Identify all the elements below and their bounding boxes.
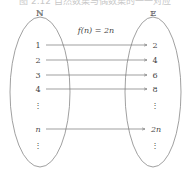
right-ellipsis: ⋮ — [151, 101, 159, 110]
mapping-arrows — [46, 45, 147, 129]
right-element: 6 — [152, 71, 157, 80]
left-element: 3 — [35, 71, 40, 80]
right-element: 2n — [150, 125, 161, 134]
right-element: 2 — [152, 41, 157, 50]
left-ellipsis: ⋮ — [34, 141, 42, 150]
right-element: 4 — [152, 56, 157, 65]
bijection-diagram: ℕ 𝔼 f(n) = 2n 1 2 3 4 ⋮ n ⋮ 2 4 6 8 ⋮ 2n… — [0, 0, 190, 174]
right-element: 8 — [152, 85, 157, 94]
right-set-label: 𝔼 — [150, 9, 156, 18]
left-element: n — [35, 125, 40, 134]
left-element: 2 — [35, 56, 40, 65]
left-element: 1 — [35, 41, 40, 50]
right-ellipsis: ⋮ — [151, 141, 159, 150]
mapping-label: f(n) = 2n — [77, 26, 114, 35]
left-ellipsis: ⋮ — [34, 101, 42, 110]
left-element: 4 — [35, 85, 40, 94]
left-set-label: ℕ — [36, 9, 43, 18]
